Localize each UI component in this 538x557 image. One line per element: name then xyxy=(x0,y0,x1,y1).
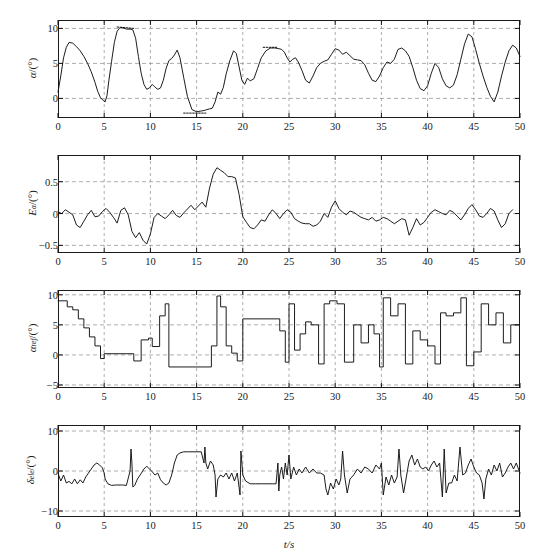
x-tick-label: 40 xyxy=(422,121,433,132)
plot-svg-error xyxy=(58,155,520,253)
panel-error xyxy=(58,155,520,253)
x-tick-label: 15 xyxy=(191,391,202,402)
x-tick-label: 25 xyxy=(284,121,295,132)
x-tick-label: 0 xyxy=(55,520,60,531)
figure-container: α/(°) Eα/(°) αref/(°) δele/(°) t/s 05100… xyxy=(0,0,538,557)
y-tick-label: 0 xyxy=(0,93,62,104)
ylabel-alpha-ref-sub: ref xyxy=(29,338,38,346)
y-tick-label: 10 xyxy=(0,426,62,437)
x-tick-label: 50 xyxy=(515,520,526,531)
panel-alpha-ref xyxy=(58,290,520,388)
x-tick-label: 35 xyxy=(376,391,387,402)
x-tick-label: 10 xyxy=(145,520,156,531)
x-tick-label: 0 xyxy=(55,121,60,132)
x-tick-label: 30 xyxy=(330,520,341,531)
panel-elevator xyxy=(58,425,520,517)
x-tick-label: 30 xyxy=(330,256,341,267)
x-tick-label: 5 xyxy=(102,391,107,402)
x-tick-label: 5 xyxy=(102,256,107,267)
x-tick-label: 10 xyxy=(145,121,156,132)
ylabel-error: Eα/(°) xyxy=(26,163,38,243)
x-tick-label: 20 xyxy=(238,391,249,402)
x-tick-label: 15 xyxy=(191,121,202,132)
x-tick-label: 50 xyxy=(515,391,526,402)
x-tick-label: 30 xyxy=(330,121,341,132)
x-tick-label: 35 xyxy=(376,520,387,531)
xlabel-time: t/s xyxy=(284,538,294,550)
x-tick-label: 5 xyxy=(102,520,107,531)
x-tick-label: 45 xyxy=(469,256,480,267)
y-tick-label: 5 xyxy=(0,58,62,69)
plot-svg-alpha xyxy=(58,20,520,118)
y-tick-label: 0.5 xyxy=(0,176,62,187)
x-tick-label: 45 xyxy=(469,520,480,531)
y-tick-label: 0 xyxy=(0,466,62,477)
y-tick-label: 10 xyxy=(0,289,62,300)
x-tick-label: 10 xyxy=(145,391,156,402)
plot-svg-alpha-ref xyxy=(58,290,520,388)
ylabel-elevator-main: δ xyxy=(24,479,36,484)
x-tick-label: 40 xyxy=(422,391,433,402)
x-tick-label: 25 xyxy=(284,391,295,402)
y-tick-label: −0.5 xyxy=(0,240,62,251)
plot-svg-elevator xyxy=(58,425,520,517)
y-tick-label: 10 xyxy=(0,23,62,34)
x-tick-label: 0 xyxy=(55,256,60,267)
y-tick-label: −10 xyxy=(0,506,62,517)
x-tick-label: 30 xyxy=(330,391,341,402)
ylabel-alpha-ref: αref/(°) xyxy=(26,298,38,378)
x-tick-label: 45 xyxy=(469,121,480,132)
x-tick-label: 5 xyxy=(102,121,107,132)
x-tick-label: 35 xyxy=(376,256,387,267)
x-tick-label: 50 xyxy=(515,256,526,267)
x-tick-label: 50 xyxy=(515,121,526,132)
x-tick-label: 20 xyxy=(238,520,249,531)
x-tick-label: 40 xyxy=(422,520,433,531)
y-tick-label: 5 xyxy=(0,319,62,330)
y-tick-label: 0 xyxy=(0,208,62,219)
x-tick-label: 35 xyxy=(376,121,387,132)
x-tick-label: 0 xyxy=(55,391,60,402)
panel-alpha xyxy=(58,20,520,118)
x-tick-label: 10 xyxy=(145,256,156,267)
ylabel-error-unit: /(°) xyxy=(26,190,38,205)
x-tick-label: 40 xyxy=(422,256,433,267)
y-tick-label: −5 xyxy=(0,379,62,390)
x-tick-label: 20 xyxy=(238,121,249,132)
x-tick-label: 25 xyxy=(284,256,295,267)
x-tick-label: 45 xyxy=(469,391,480,402)
x-tick-label: 20 xyxy=(238,256,249,267)
x-tick-label: 25 xyxy=(284,520,295,531)
ylabel-alpha-main: α xyxy=(26,73,38,79)
x-tick-label: 15 xyxy=(191,256,202,267)
x-tick-label: 15 xyxy=(191,520,202,531)
y-tick-label: 0 xyxy=(0,349,62,360)
